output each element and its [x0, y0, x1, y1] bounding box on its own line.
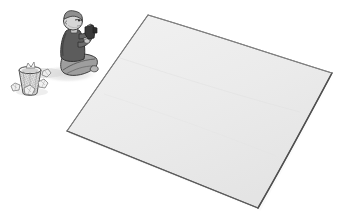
illustration-canvas: A grayscale sketch of a person sitting c… — [0, 0, 343, 224]
illustration-svg — [0, 0, 343, 224]
person-head — [64, 11, 83, 30]
camera-lens — [93, 27, 97, 33]
person-hand-lower — [84, 39, 90, 44]
person-foot — [90, 66, 98, 72]
person-pupil — [78, 19, 80, 21]
